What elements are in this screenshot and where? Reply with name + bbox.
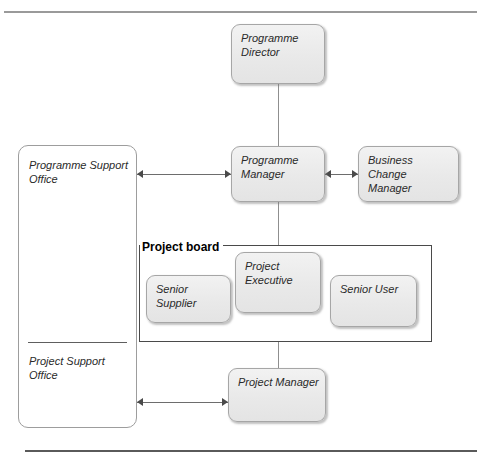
connector-director-to-programme-manager [278,84,279,146]
node-programme-manager-label: Programme Manager [241,153,318,181]
arrowhead-project-support-office-right [137,398,143,406]
node-senior-supplier-label: Senior Supplier [156,282,224,310]
support-office-column: Programme Support Office Project Support… [18,145,137,428]
node-senior-supplier[interactable]: Senior Supplier [146,275,231,323]
node-business-change-manager[interactable]: Business Change Manager [358,146,459,202]
node-senior-user-label: Senior User [340,282,410,296]
node-business-change-manager-label: Business Change Manager [368,153,452,195]
connector-pso-to-programme-manager [137,174,231,175]
node-programme-manager[interactable]: Programme Manager [231,146,325,202]
node-project-manager-label: Project Manager [238,375,319,389]
connector-programme-manager-to-board [278,202,279,246]
node-project-executive[interactable]: Project Executive [235,252,321,313]
diagram-canvas: Project board Programme Support Office P… [0,0,481,462]
node-project-manager[interactable]: Project Manager [228,368,326,422]
node-project-executive-label: Project Executive [245,259,314,287]
support-office-divider [28,342,127,343]
programme-support-office-label: Programme Support Office [29,158,130,186]
node-programme-director[interactable]: Programme Director [231,24,325,84]
node-senior-user[interactable]: Senior User [330,275,417,327]
page-rule-top [4,11,477,13]
connector-pso2-to-project-manager [137,402,228,403]
page-rule-bottom [25,450,477,452]
arrowhead-programme-manager-right [325,170,331,178]
node-programme-director-label: Programme Director [241,31,318,59]
project-support-office-label: Project Support Office [29,354,130,382]
connector-board-to-project-manager [278,342,279,369]
arrowhead-pso-left [137,170,143,178]
project-board-label: Project board [142,240,219,254]
